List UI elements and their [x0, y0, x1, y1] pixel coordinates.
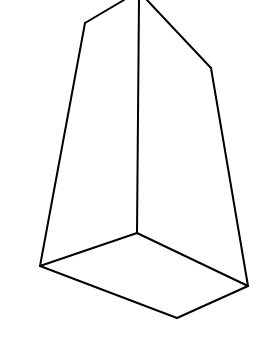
wireframe-solid [0, 0, 258, 349]
edge-center-vertical [137, 0, 139, 233]
edge-left-side [40, 23, 85, 266]
edge-right-top [147, 0, 211, 68]
edge-base-front-left [40, 266, 177, 318]
edge-left-top [85, 0, 124, 23]
edge-base-front-right [177, 286, 248, 318]
diagram-canvas [0, 0, 258, 349]
edge-base-back-right [137, 233, 248, 286]
edge-right-side [211, 68, 248, 286]
edge-base-back-left [40, 233, 137, 266]
